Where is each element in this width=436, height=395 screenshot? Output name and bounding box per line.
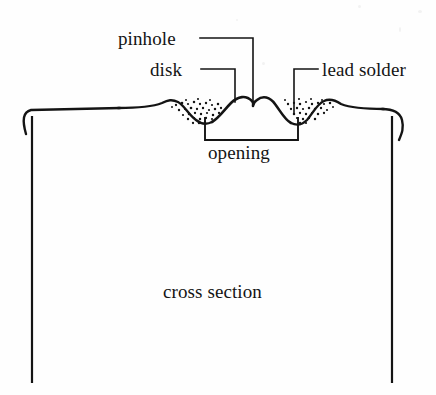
label-disk: disk [150,60,182,79]
lid-profile [24,97,403,140]
figure-root: pinhole disk lead solder opening cross s… [0,0,436,395]
lead-solder-stipple-right [284,98,334,124]
scan-speck [418,10,422,13]
lid-right-flat [291,100,384,125]
label-pinhole: pinhole [118,29,176,48]
scan-speck [399,27,401,32]
scan-speck [262,62,265,65]
label-cross-section: cross section [163,282,262,301]
scan-speck [358,5,361,8]
opening-bracket-path [205,118,298,140]
disk-leader-line [201,69,235,102]
lid-left-flat [118,100,212,124]
label-opening: opening [208,143,270,162]
central-dome [212,97,291,123]
label-lead-solder: lead solder [322,60,406,79]
scan-speck [236,19,238,21]
left-rim-curl [24,108,120,134]
opening-bracket [205,118,298,140]
lead-solder-leader-line [294,69,318,113]
leader-lines [200,38,318,113]
pinhole-leader-line [200,38,253,104]
